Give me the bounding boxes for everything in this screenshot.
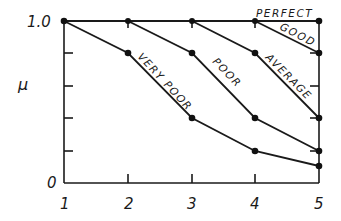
y-tick-label-bottom: 0 <box>47 174 57 192</box>
point <box>189 115 196 122</box>
x-tick-label-2: 2 <box>124 195 134 213</box>
point <box>316 148 323 155</box>
data-points <box>61 18 323 170</box>
y-axis-title: μ <box>17 75 28 94</box>
point <box>189 50 196 57</box>
label-poor: POOR <box>211 55 245 89</box>
label-good: GOOD <box>278 20 318 48</box>
membership-chart: 1.0 0 μ 1 2 3 4 5 PERFECT GOOD AVERAGE P… <box>0 0 341 221</box>
point <box>252 148 259 155</box>
x-tick-label-1: 1 <box>60 195 70 213</box>
point <box>316 50 323 57</box>
y-tick-label-top: 1.0 <box>27 13 51 31</box>
series-lines <box>64 21 319 166</box>
x-tick-label-5: 5 <box>314 195 324 213</box>
point <box>189 18 195 24</box>
point <box>316 163 323 170</box>
line-very-poor <box>64 21 319 166</box>
label-perfect: PERFECT <box>256 7 313 19</box>
label-very-poor: VERY POOR <box>136 50 196 113</box>
x-tick-label-3: 3 <box>187 195 197 213</box>
point <box>316 115 323 122</box>
point <box>61 18 68 25</box>
point <box>125 50 132 57</box>
x-tick-label-4: 4 <box>250 195 260 213</box>
point <box>316 18 323 25</box>
point <box>252 115 259 122</box>
point <box>125 18 131 24</box>
point <box>252 50 259 57</box>
label-average: AVERAGE <box>263 50 315 102</box>
